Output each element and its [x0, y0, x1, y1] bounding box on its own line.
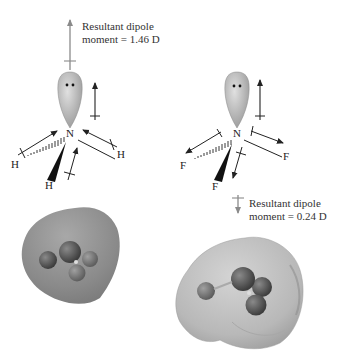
nf3-central-atom: N — [233, 128, 241, 139]
wedge-bond — [214, 144, 232, 182]
nf3-substituent-right: F — [283, 151, 289, 162]
hashed-bond — [28, 137, 64, 156]
nf3-resultant-label-line2: moment = 0.24 D — [249, 210, 327, 222]
nf3-structure — [186, 72, 283, 213]
nf3-substituent-bottom: F — [212, 181, 218, 192]
nh3-central-atom: N — [66, 128, 74, 139]
nf3-resultant-label-line1: Resultant dipole — [249, 197, 321, 209]
nh3-substituent-right: H — [117, 149, 125, 160]
lone-pair-lobe — [58, 72, 82, 128]
nh3-substituent-bottom: H — [45, 180, 53, 191]
nh3-resultant-label-line1: Resultant dipole — [82, 20, 154, 32]
nh3-electrostatic-surface — [22, 207, 120, 304]
nf3-electrostatic-surface — [176, 237, 303, 349]
nh3-substituent-left: H — [11, 159, 19, 170]
wedge-bond — [47, 142, 66, 182]
nf3-substituent-left: F — [180, 160, 186, 171]
nh3-resultant-label-line2: moment = 1.46 D — [82, 33, 160, 45]
lone-pair-lobe — [225, 72, 249, 128]
